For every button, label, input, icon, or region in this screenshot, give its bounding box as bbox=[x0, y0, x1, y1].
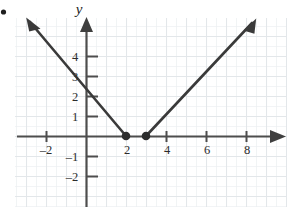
x-tick-label-neg2: –2 bbox=[39, 143, 53, 157]
y-tick-label-3: 3 bbox=[72, 70, 78, 84]
y-tick-label-4: 4 bbox=[72, 50, 79, 64]
endpoint-dot-x2 bbox=[122, 132, 131, 141]
x-tick-label-6: 6 bbox=[204, 143, 210, 157]
y-tick-label-neg2: –2 bbox=[65, 170, 79, 184]
y-tick-label-1: 1 bbox=[72, 110, 78, 124]
graph-figure: y –2 2 4 6 8 4 3 2 1 –1 –2 bbox=[0, 0, 287, 207]
x-tick-label-8: 8 bbox=[244, 143, 250, 157]
x-tick-label-4: 4 bbox=[164, 143, 171, 157]
endpoint-dot-x3 bbox=[142, 132, 151, 141]
problem-bullet-marker bbox=[1, 9, 6, 14]
y-tick-label-2: 2 bbox=[72, 90, 78, 104]
y-axis-label: y bbox=[74, 1, 83, 17]
y-tick-label-neg1: –1 bbox=[65, 150, 79, 164]
coordinate-plane: y –2 2 4 6 8 4 3 2 1 –1 –2 bbox=[0, 0, 287, 207]
x-tick-label-2: 2 bbox=[124, 143, 130, 157]
grid-major bbox=[15, 18, 287, 207]
grid-layer bbox=[15, 18, 287, 207]
